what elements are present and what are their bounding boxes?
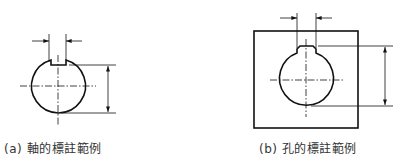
shaft-outline (32, 60, 86, 113)
figure-a-shaft (20, 34, 116, 126)
caption-hole-example: (b) 孔的標註範例 (259, 139, 357, 156)
hole-outline (280, 46, 334, 105)
caption-shaft-example: (a) 軸的標註範例 (4, 139, 102, 156)
figure-b-hole (254, 13, 393, 128)
